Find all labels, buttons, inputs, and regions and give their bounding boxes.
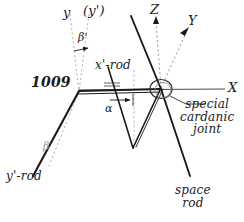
bar-hatch-marks bbox=[104, 83, 120, 86]
beta-prime-label: β' bbox=[78, 32, 88, 44]
joint-label-line3: joint bbox=[180, 123, 234, 136]
joint-label-line1: special bbox=[180, 98, 234, 111]
beta-prime-angle-arrow bbox=[74, 48, 88, 51]
axis-y-arrow bbox=[161, 27, 189, 88]
axis-z-label: Z bbox=[150, 3, 159, 17]
part-number-label: 1009 bbox=[31, 75, 71, 90]
axis-y-local-label: y bbox=[63, 6, 71, 20]
alpha-angle-arrow bbox=[110, 94, 133, 106]
v-right-leg bbox=[133, 90, 160, 148]
y-prime-rod-label: y'-rod bbox=[6, 170, 42, 183]
v-right-leg-double bbox=[136, 89, 163, 147]
space-rod-label-line2: rod bbox=[175, 197, 211, 210]
axis-y-local-line bbox=[70, 14, 79, 92]
axis-y-label: Y bbox=[188, 14, 197, 28]
axis-y-prime-local-line bbox=[79, 14, 89, 92]
beta-label: β bbox=[43, 141, 50, 153]
y-prime-rod-line bbox=[33, 91, 79, 176]
x-prime-rod-label: x'-rod bbox=[95, 59, 131, 72]
space-rod-label-line1: space bbox=[175, 184, 211, 197]
cardanic-joint-label: special cardanic joint bbox=[180, 98, 234, 136]
axis-y-prime-local-label: (y') bbox=[83, 4, 105, 18]
space-rod-label: space rod bbox=[175, 184, 211, 209]
axis-x-label: X bbox=[228, 81, 237, 95]
rod-assembly bbox=[33, 16, 190, 176]
horizontal-bar bbox=[79, 89, 160, 91]
horizontal-bar-shadow bbox=[79, 92, 160, 94]
beta-reference-line bbox=[48, 92, 79, 168]
alpha-label: α bbox=[105, 103, 113, 115]
mechanism-diagram: y (y') Z Y X β' α β 1009 x'-rod y'-rod s… bbox=[0, 0, 244, 222]
